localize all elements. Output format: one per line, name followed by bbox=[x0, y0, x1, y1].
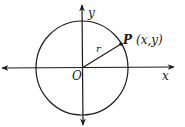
radius-label: r bbox=[96, 43, 102, 54]
y-axis bbox=[82, 5, 83, 125]
point-coords-label: (x,y) bbox=[136, 33, 163, 47]
point-name-label: P bbox=[122, 33, 133, 47]
origin-label: O bbox=[72, 69, 82, 83]
x-axis-label: x bbox=[162, 69, 169, 83]
x-axis bbox=[2, 67, 174, 68]
circle-diagram: y x O r P (x,y) bbox=[0, 0, 185, 127]
radius-line bbox=[82, 44, 121, 68]
y-axis-label: y bbox=[87, 6, 95, 20]
